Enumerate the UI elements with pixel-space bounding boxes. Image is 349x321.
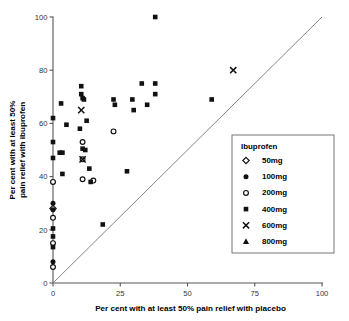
data-point — [88, 180, 93, 185]
y-tick-label-0: 0 — [43, 279, 47, 288]
data-point — [209, 97, 214, 102]
data-point — [145, 102, 150, 107]
data-point — [80, 177, 85, 182]
y-tick-label-60: 60 — [39, 119, 47, 128]
data-point — [51, 215, 56, 220]
data-points — [50, 15, 237, 270]
data-point — [131, 108, 136, 113]
data-point — [51, 180, 56, 185]
data-point — [83, 148, 88, 153]
legend: Ibuprofen50mg100mg200mg400mg600mg800mg — [232, 135, 334, 253]
y-axis-title-line2: pain relief with ibuprofen — [18, 102, 27, 198]
data-point — [153, 81, 158, 86]
x-tick-label-75: 75 — [251, 289, 259, 298]
data-point — [60, 150, 65, 155]
data-point — [125, 169, 130, 174]
y-axis-title-line1: Per cent with at least 50% — [8, 101, 17, 200]
data-point — [111, 129, 116, 134]
data-point — [51, 265, 56, 270]
legend-label-400mg: 400mg — [262, 205, 287, 214]
y-tick-label-100: 100 — [35, 13, 48, 22]
x-tick-label-25: 25 — [116, 289, 124, 298]
data-point — [51, 245, 56, 250]
data-point — [51, 207, 56, 212]
legend-marker-400mg — [244, 207, 249, 212]
data-point — [130, 97, 135, 102]
series-400mg — [51, 15, 214, 250]
x-axis-title: Per cent with at least 50% pain relief w… — [95, 304, 286, 313]
legend-label-600mg: 600mg — [262, 221, 287, 230]
data-point — [64, 122, 69, 127]
legend-label-50mg: 50mg — [262, 156, 283, 165]
legend-marker-200mg — [244, 191, 249, 196]
data-point — [51, 226, 56, 231]
data-point — [59, 101, 64, 106]
data-point — [80, 140, 85, 145]
legend-label-100mg: 100mg — [262, 172, 287, 181]
y-tick-label-20: 20 — [39, 226, 47, 235]
x-tick-label-100: 100 — [316, 289, 329, 298]
data-point — [79, 84, 84, 89]
data-point — [79, 92, 84, 97]
y-tick-label-40: 40 — [39, 172, 47, 181]
data-point — [51, 116, 56, 121]
data-point — [51, 156, 56, 161]
data-point — [60, 172, 65, 177]
data-point — [153, 92, 158, 97]
data-point — [51, 201, 56, 206]
data-point — [100, 222, 105, 227]
y-tick-label-80: 80 — [39, 66, 47, 75]
data-point — [51, 234, 56, 239]
legend-label-800mg: 800mg — [262, 237, 287, 246]
data-point — [230, 67, 236, 73]
legend-marker-100mg — [244, 174, 249, 179]
data-point — [84, 118, 89, 123]
data-point — [113, 102, 118, 107]
data-point — [111, 97, 116, 102]
data-point — [51, 241, 56, 246]
data-point — [82, 97, 87, 102]
data-point — [51, 140, 56, 145]
data-point — [78, 126, 83, 131]
data-point — [78, 107, 84, 113]
x-tick-label-50: 50 — [183, 289, 191, 298]
scatter-plot-figure: 0204060801000255075100 Per cent with at … — [0, 0, 349, 321]
legend-label-200mg: 200mg — [262, 188, 287, 197]
x-tick-label-0: 0 — [51, 289, 55, 298]
data-point — [139, 81, 144, 86]
data-point — [87, 166, 92, 171]
data-point — [153, 15, 158, 20]
plot-canvas: 0204060801000255075100 Per cent with at … — [0, 0, 349, 321]
data-point — [51, 259, 56, 264]
legend-title: Ibuprofen — [241, 142, 278, 151]
